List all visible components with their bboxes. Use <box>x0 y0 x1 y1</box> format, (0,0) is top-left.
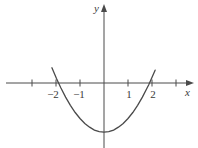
y-axis-arrowhead <box>101 4 107 12</box>
x-axis-label: x <box>184 86 190 98</box>
x-tick-label-neg2: −2 <box>47 88 59 100</box>
x-tick-label-pos2: 2 <box>150 88 156 100</box>
x-tick-label-neg1: −1 <box>73 88 85 100</box>
graph-figure: −2 −1 1 2 x y <box>0 0 198 148</box>
coordinate-plot: −2 −1 1 2 x y <box>0 0 198 148</box>
x-tick-label-pos1: 1 <box>126 88 132 100</box>
y-axis-label: y <box>93 2 99 14</box>
